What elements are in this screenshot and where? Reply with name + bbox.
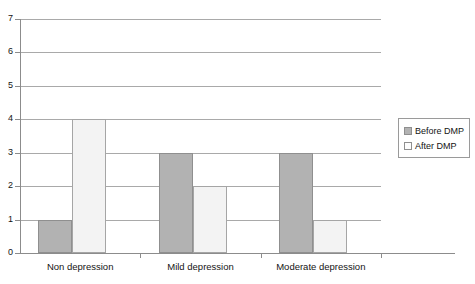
bar-chart: 01234567 Non depressionMild depressionMo… [0, 0, 475, 284]
legend-item-after-dmp: After DMP [404, 139, 465, 152]
x-axis-line [20, 253, 455, 254]
y-tick-label-3: 3 [1, 148, 13, 157]
legend-label-after-dmp: After DMP [415, 141, 457, 151]
x-tick-mark-0 [140, 253, 141, 258]
bar-after-dmp-0 [72, 119, 106, 253]
x-category-label-2: Moderate depression [261, 261, 381, 272]
y-tick-label-0: 0 [1, 248, 13, 257]
bar-after-dmp-2 [313, 220, 347, 253]
legend-swatch-icon-before-dmp [404, 127, 412, 135]
legend-label-before-dmp: Before DMP [415, 126, 464, 136]
y-tick-label-slot-4: 4 [0, 114, 13, 123]
y-tick-label-5: 5 [1, 81, 13, 90]
bar-before-dmp-0 [38, 220, 72, 253]
y-tick-label-slot-0: 0 [0, 248, 13, 257]
y-tick-label-4: 4 [1, 114, 13, 123]
x-category-label-1: Mild depression [140, 261, 260, 272]
y-tick-label-slot-2: 2 [0, 181, 13, 190]
x-category-label-0: Non depression [20, 261, 140, 272]
y-tick-label-1: 1 [1, 215, 13, 224]
bar-group-layer [20, 19, 381, 253]
bar-before-dmp-2 [279, 153, 313, 253]
legend-swatch-icon-after-dmp [404, 142, 412, 150]
x-tick-mark-2 [381, 253, 382, 258]
y-tick-label-slot-3: 3 [0, 148, 13, 157]
y-tick-label-7: 7 [1, 14, 13, 23]
chart-legend: Before DMP After DMP [398, 118, 470, 158]
bar-after-dmp-1 [193, 186, 227, 253]
x-tick-mark-1 [261, 253, 262, 258]
y-tick-label-slot-6: 6 [0, 47, 13, 56]
y-tick-label-2: 2 [1, 181, 13, 190]
y-tick-mark-0 [15, 253, 20, 254]
bar-before-dmp-1 [159, 153, 193, 253]
y-tick-label-slot-1: 1 [0, 215, 13, 224]
y-tick-label-6: 6 [1, 47, 13, 56]
y-tick-label-slot-7: 7 [0, 14, 13, 23]
y-tick-label-slot-5: 5 [0, 81, 13, 90]
legend-item-before-dmp: Before DMP [404, 124, 465, 137]
